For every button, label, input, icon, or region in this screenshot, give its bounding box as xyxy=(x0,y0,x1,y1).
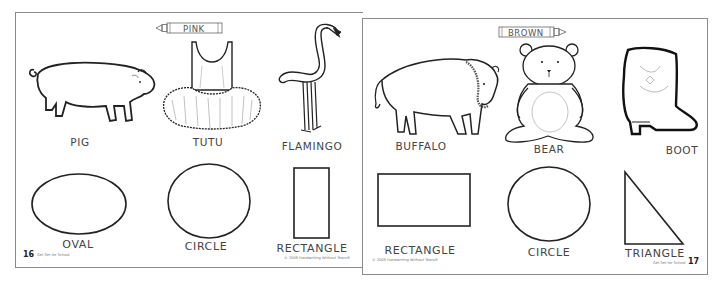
shape-label: OVAL xyxy=(62,238,93,251)
crayon-color-label: PINK xyxy=(183,24,205,34)
pink-crayon: PINK xyxy=(156,22,226,34)
buffalo-drawing-icon xyxy=(370,54,502,138)
circle-shape-icon xyxy=(166,162,252,240)
picture-label: BEAR xyxy=(534,143,565,155)
series-title: Get Set for School xyxy=(37,253,70,257)
page-number: 17 xyxy=(688,257,699,266)
shape-label: RECTANGLE xyxy=(277,242,348,255)
wide-rectangle-shape-icon xyxy=(376,172,472,228)
shape-label: CIRCLE xyxy=(528,246,570,259)
page-number: 16 xyxy=(23,250,34,259)
tutu-drawing-icon xyxy=(162,40,262,132)
picture-label: PIG xyxy=(70,136,89,148)
shape-label: RECTANGLE xyxy=(385,244,456,257)
copyright-notice: © 2008 Handwriting Without Tears® xyxy=(284,256,350,260)
cowboy-boot-drawing-icon xyxy=(620,46,700,138)
circle-shape-icon xyxy=(505,164,593,244)
copyright-notice: © 2008 Handwriting Without Tears® xyxy=(372,258,438,262)
shape-label: TRIANGLE xyxy=(625,247,685,260)
series-title: Get Set for School xyxy=(653,261,686,265)
right-triangle-shape-icon xyxy=(623,170,687,248)
picture-label: BOOT xyxy=(666,144,698,156)
picture-label: TUTU xyxy=(193,136,224,148)
crayon-color-label: BROWN xyxy=(508,28,544,38)
brown-crayon: BROWN xyxy=(498,26,570,38)
picture-label: FLAMINGO xyxy=(282,140,343,152)
teddy-bear-drawing-icon xyxy=(502,42,598,142)
oval-shape-icon xyxy=(30,172,128,236)
picture-label: BUFFALO xyxy=(395,140,446,152)
tall-rectangle-shape-icon xyxy=(292,166,332,240)
shape-label: CIRCLE xyxy=(185,240,227,253)
flamingo-drawing-icon xyxy=(275,20,345,138)
pig-drawing-icon xyxy=(26,58,156,128)
